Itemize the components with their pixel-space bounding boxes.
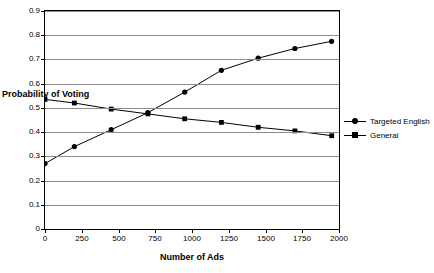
x-tick-label: 1250 bbox=[214, 235, 244, 243]
x-tick-label: 1750 bbox=[287, 235, 317, 243]
data-point-marker bbox=[329, 39, 334, 44]
data-point-marker bbox=[182, 90, 187, 95]
x-tick-label: 750 bbox=[140, 235, 170, 243]
x-tick-mark bbox=[82, 230, 83, 233]
x-tick-label: 500 bbox=[104, 235, 134, 243]
gridline bbox=[45, 156, 339, 157]
chart-legend: Targeted English General bbox=[344, 115, 432, 143]
x-tick-mark bbox=[192, 230, 193, 233]
data-point-marker bbox=[256, 125, 261, 130]
gridline bbox=[45, 132, 339, 133]
y-tick-label: 0.5 bbox=[2, 104, 40, 112]
y-tick-mark bbox=[41, 205, 44, 206]
y-tick-mark bbox=[41, 35, 44, 36]
data-point-marker bbox=[219, 120, 224, 125]
gridline bbox=[45, 181, 339, 182]
series-layer bbox=[45, 11, 339, 229]
y-tick-mark bbox=[41, 156, 44, 157]
legend-label: General bbox=[370, 129, 398, 143]
gridline bbox=[45, 108, 339, 109]
data-point-marker bbox=[292, 46, 297, 51]
y-tick-label: 0.2 bbox=[2, 177, 40, 185]
legend-item-general: General bbox=[344, 129, 432, 143]
x-tick-label: 1000 bbox=[177, 235, 207, 243]
data-point-marker bbox=[146, 112, 151, 117]
legend-circle-marker-icon bbox=[352, 118, 358, 124]
y-tick-mark bbox=[41, 132, 44, 133]
gridline bbox=[45, 35, 339, 36]
y-tick-label: 0.1 bbox=[2, 201, 40, 209]
y-tick-label: 0.8 bbox=[2, 31, 40, 39]
x-tick-label: 2000 bbox=[324, 235, 354, 243]
x-tick-label: 1500 bbox=[251, 235, 281, 243]
y-tick-mark bbox=[41, 11, 44, 12]
y-tick-label: 0.6 bbox=[2, 80, 40, 88]
chart-container: 00.10.20.30.40.50.60.70.80.9 02505007501… bbox=[0, 0, 434, 273]
x-tick-mark bbox=[266, 230, 267, 233]
y-tick-label: 0.9 bbox=[2, 7, 40, 15]
x-tick-label: 0 bbox=[30, 235, 60, 243]
y-tick-mark bbox=[41, 229, 44, 230]
data-point-marker bbox=[72, 101, 77, 106]
y-tick-label: 0.3 bbox=[2, 152, 40, 160]
y-axis-title: Probability of Voting bbox=[2, 89, 89, 99]
gridline bbox=[45, 59, 339, 60]
x-tick-mark bbox=[339, 230, 340, 233]
plot-area bbox=[44, 10, 340, 230]
legend-label: Targeted English bbox=[370, 115, 430, 129]
y-tick-label: 0.7 bbox=[2, 55, 40, 63]
y-tick-label: 0 bbox=[2, 225, 40, 233]
gridline bbox=[45, 11, 339, 12]
data-point-marker bbox=[219, 68, 224, 73]
y-tick-mark bbox=[41, 181, 44, 182]
x-axis-title: Number of Ads bbox=[44, 252, 340, 262]
x-tick-label: 250 bbox=[67, 235, 97, 243]
data-point-marker bbox=[72, 144, 77, 149]
data-point-marker bbox=[182, 116, 187, 121]
series-line-general bbox=[45, 99, 332, 135]
x-tick-mark bbox=[302, 230, 303, 233]
x-tick-mark bbox=[229, 230, 230, 233]
y-tick-mark bbox=[41, 84, 44, 85]
legend-item-targeted-english: Targeted English bbox=[344, 115, 432, 129]
y-tick-mark bbox=[41, 108, 44, 109]
x-tick-mark bbox=[155, 230, 156, 233]
y-tick-label: 0.4 bbox=[2, 128, 40, 136]
gridline bbox=[45, 84, 339, 85]
gridline bbox=[45, 205, 339, 206]
x-tick-mark bbox=[119, 230, 120, 233]
x-tick-mark bbox=[45, 230, 46, 233]
y-tick-mark bbox=[41, 59, 44, 60]
legend-square-marker-icon bbox=[352, 132, 358, 138]
data-point-marker bbox=[329, 133, 334, 138]
